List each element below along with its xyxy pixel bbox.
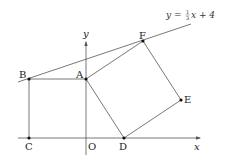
label-x-axis: x [194,141,200,152]
label-origin: O [88,141,96,152]
square-adef [86,41,181,138]
label-c: C [25,141,33,152]
svg-text:3: 3 [186,15,189,21]
x-axis [18,136,201,139]
point-a [84,77,87,80]
point-d [122,136,125,139]
line-graph [18,24,191,82]
point-e [179,98,182,101]
point-c [27,136,30,139]
svg-text:y =: y = [165,10,182,20]
label-e: E [184,94,191,105]
label-b: B [19,69,26,80]
diagram-canvas: A B C D E F O x y y = 1 3 x + 4 [0,0,226,164]
point-b [27,77,30,80]
label-d: D [119,141,127,152]
rectangle-sides [29,79,86,138]
svg-text:x + 4: x + 4 [191,10,215,20]
label-a: A [75,69,84,80]
points [27,39,182,139]
label-y-axis: y [82,28,89,39]
label-f: F [139,30,146,41]
line-equation-label: y = 1 3 x + 4 [165,9,215,21]
